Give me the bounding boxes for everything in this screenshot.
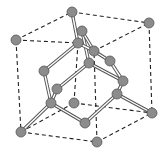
atom bbox=[11, 35, 21, 45]
bond bbox=[57, 63, 89, 89]
atom bbox=[105, 56, 115, 66]
atoms bbox=[11, 7, 157, 147]
cube-edge bbox=[72, 12, 149, 23]
cube-edge bbox=[16, 40, 21, 132]
atom bbox=[73, 38, 83, 48]
cube-edge bbox=[21, 132, 97, 142]
bond bbox=[85, 94, 117, 123]
bond bbox=[51, 103, 85, 123]
cube-edge bbox=[16, 12, 72, 40]
atom bbox=[92, 137, 102, 147]
atom bbox=[89, 46, 99, 56]
atom bbox=[67, 7, 77, 17]
atom bbox=[147, 108, 157, 118]
atom bbox=[39, 66, 49, 76]
atom bbox=[16, 127, 26, 137]
cube-edge bbox=[16, 40, 78, 43]
atom bbox=[80, 118, 90, 128]
atom bbox=[112, 89, 122, 99]
atom bbox=[84, 58, 94, 68]
atom bbox=[69, 98, 79, 108]
bond bbox=[44, 43, 78, 71]
cube-edge bbox=[97, 113, 152, 142]
atom bbox=[118, 76, 128, 86]
atom bbox=[46, 98, 56, 108]
cube-edge bbox=[94, 23, 149, 51]
atom bbox=[77, 26, 87, 36]
atom bbox=[144, 18, 154, 28]
bond bbox=[117, 94, 152, 113]
cube-edge bbox=[149, 23, 152, 113]
atom bbox=[52, 84, 62, 94]
diamond-crystal-diagram bbox=[0, 0, 168, 157]
